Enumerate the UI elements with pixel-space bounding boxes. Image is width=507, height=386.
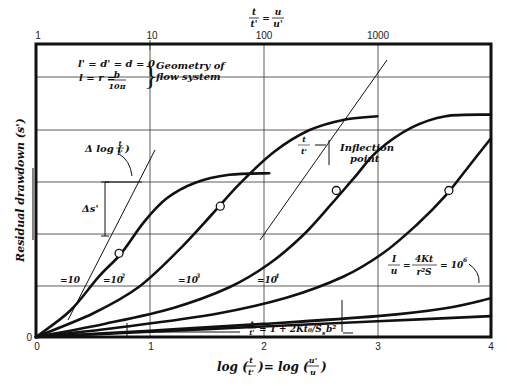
- inflection-point-marker: [332, 187, 340, 195]
- svg-text:t: t: [302, 134, 306, 144]
- gridlines: [36, 40, 491, 337]
- svg-text:= 10: = 10: [440, 260, 464, 270]
- geometry-annotation: l' = d' = d = 0 l = r = b 10π } Geometry…: [78, 58, 226, 91]
- svg-text:t': t': [248, 367, 254, 377]
- svg-text:Inflection: Inflection: [339, 142, 394, 153]
- x-tick-4: 4: [488, 341, 494, 352]
- svg-text:= 1 + 2Kt₀/S: = 1 + 2Kt₀/S: [259, 324, 322, 334]
- svg-text:t': t': [301, 146, 307, 156]
- svg-text:)= log (: )= log (: [257, 360, 310, 374]
- svg-text:b²: b²: [326, 324, 336, 334]
- svg-text:10π: 10π: [109, 81, 126, 91]
- svg-text:=: =: [262, 13, 270, 23]
- x-tick-1: 1: [148, 341, 154, 352]
- svg-text:=: =: [403, 260, 411, 270]
- inflection-point-marker: [115, 249, 123, 257]
- top-tick-1000: 1000: [367, 30, 390, 41]
- svg-text:): ): [124, 143, 130, 154]
- x-axis-label: log ( t t' )= log ( u' u ): [217, 355, 327, 377]
- x-tick-2: 2: [261, 341, 267, 352]
- inflection-annotation: t t' Inflection point: [298, 134, 394, 164]
- svg-text:6: 6: [463, 256, 468, 263]
- svg-text:t: t: [249, 355, 253, 365]
- svg-text:Residual drawdown (s'): Residual drawdown (s'): [14, 118, 27, 263]
- svg-text:I: I: [391, 254, 397, 264]
- svg-text:3: 3: [196, 272, 200, 279]
- x-tick-0: 0: [34, 341, 40, 352]
- svg-text:r²S: r²S: [416, 267, 432, 277]
- inflection-markers: [115, 187, 453, 258]
- svg-text:t': t': [251, 19, 258, 29]
- y-axis-label: Residual drawdown (s'): [14, 118, 33, 263]
- svg-text:point: point: [350, 153, 380, 164]
- inflection-point-marker: [445, 187, 453, 195]
- top-tick-10: 10: [146, 30, 158, 41]
- svg-text:u': u': [273, 19, 282, 29]
- svg-text:b: b: [114, 70, 120, 80]
- svg-text:log (: log (: [217, 360, 249, 374]
- inflection-point-marker: [216, 202, 224, 210]
- svg-text:u: u: [391, 266, 398, 276]
- svg-text:): ): [320, 360, 327, 374]
- svg-text:u': u': [309, 355, 317, 365]
- svg-text:=10: =10: [60, 275, 81, 285]
- top-tick-1: 1: [35, 30, 41, 41]
- y-tick-0: 0: [26, 332, 32, 343]
- x-tick-3: 3: [375, 341, 381, 352]
- svg-text:Geometry of: Geometry of: [156, 60, 226, 71]
- svg-text:t': t': [117, 148, 122, 157]
- svg-text:2: 2: [120, 272, 125, 279]
- drawdown-chart: 0 0 1 2 3 4 1 10 100 1000 t t' = u u' Re…: [0, 0, 507, 386]
- u0-annotation: I u = 4Kt r²S = 10 6: [388, 254, 468, 277]
- top-tick-100: 100: [256, 30, 273, 41]
- plot-frame: [36, 44, 491, 337]
- svg-text:t': t': [249, 328, 254, 337]
- svg-text:u: u: [310, 367, 316, 377]
- svg-text:flow system: flow system: [155, 71, 221, 82]
- svg-text:4: 4: [275, 272, 279, 279]
- svg-text:t: t: [252, 7, 257, 17]
- top-axis-label: t t' = u u': [249, 7, 284, 29]
- top-axis-ticks: 1 10 100 1000: [35, 30, 389, 41]
- svg-text:Δs': Δs': [81, 203, 98, 214]
- svg-text:u: u: [275, 7, 282, 17]
- svg-text:4Kt: 4Kt: [415, 254, 434, 264]
